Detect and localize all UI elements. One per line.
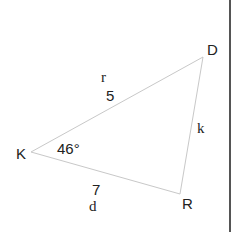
right-border-line xyxy=(229,0,231,232)
angle-label-k: 46° xyxy=(57,141,80,156)
side-label-k: k xyxy=(197,121,205,136)
side-length-kr: 7 xyxy=(92,182,100,197)
vertex-label-k: K xyxy=(16,146,26,161)
triangle-diagram: K D R r 5 k 7 d 46° xyxy=(0,0,234,232)
vertex-label-d: D xyxy=(207,42,218,57)
triangle-svg xyxy=(0,0,234,232)
side-label-d: d xyxy=(89,199,97,214)
triangle-kdr xyxy=(31,57,203,194)
side-length-kd: 5 xyxy=(106,88,114,103)
vertex-label-r: R xyxy=(182,196,193,211)
side-label-r: r xyxy=(101,70,106,85)
